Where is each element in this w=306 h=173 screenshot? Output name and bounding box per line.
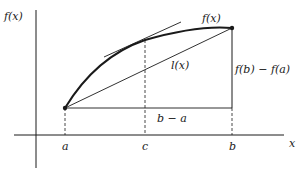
x-axis-label: x xyxy=(289,137,296,150)
y-axis-label: f(x) xyxy=(3,10,23,23)
point-a xyxy=(63,106,67,110)
run-label: b − a xyxy=(157,112,187,125)
tangent-line xyxy=(104,22,181,57)
curve-label: f(x) xyxy=(201,12,221,25)
point-b xyxy=(230,26,234,30)
tick-label-b: b xyxy=(229,140,236,153)
tick-label-c: c xyxy=(142,140,148,153)
secant-label: l(x) xyxy=(171,59,189,72)
rise-label: f(b) − f(a) xyxy=(234,63,290,76)
tick-label-a: a xyxy=(62,140,69,153)
mean-value-theorem-diagram: f(x) x f(x) l(x) f(b) − f(a) b − a a c b xyxy=(0,0,306,173)
